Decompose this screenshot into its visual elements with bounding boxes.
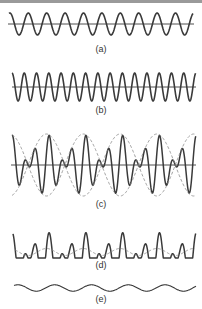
panel-d-label: (d)	[0, 260, 202, 270]
panel-a-label: (a)	[0, 44, 202, 54]
panel-b-high-frequency-wave	[12, 73, 196, 101]
panel-e-recovered-signal	[14, 285, 196, 291]
panel-c-beat-wave	[11, 134, 196, 196]
panel-d-rectified-pulses	[13, 233, 196, 258]
panel-b-label: (b)	[0, 105, 202, 115]
panel-c-label: (c)	[0, 199, 202, 209]
panel-e-label: (e)	[0, 294, 202, 304]
panel-a-carrier-wave	[8, 13, 194, 35]
